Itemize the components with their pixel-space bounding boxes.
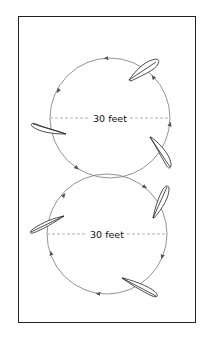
arrow-icon xyxy=(61,195,64,199)
bottom-circle: 30 feet xyxy=(47,174,167,294)
leaf-icon xyxy=(31,123,66,134)
diameter-label-top: 30 feet xyxy=(93,113,127,124)
diameter-label-bottom: 30 feet xyxy=(90,229,124,240)
leaves xyxy=(30,59,171,297)
leaf-icon xyxy=(122,278,157,297)
figure-eight-diagram: 30 feet 30 feet xyxy=(0,0,209,339)
leaf-icon xyxy=(150,137,171,168)
top-circle: 30 feet xyxy=(50,58,170,178)
leaf-icon xyxy=(153,186,169,218)
